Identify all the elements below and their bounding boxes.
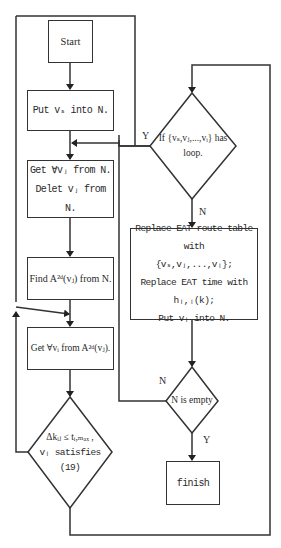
start-label: Start bbox=[61, 32, 81, 52]
condition-delta-line2: vᵢ satisfies (19) bbox=[30, 445, 110, 475]
get-delete-box: Get ∀vⱼ from N. Delet vⱼ from N. bbox=[27, 160, 114, 218]
replace-line1: Replace EAT route table with bbox=[131, 220, 257, 256]
find-label: Find A²ᵈ(vⱼ) from N. bbox=[29, 269, 111, 288]
finish-box: finish bbox=[166, 461, 220, 505]
start-box: Start bbox=[48, 20, 93, 63]
condition-delta-text: Δkᵢⱼ ≤ tᵢ,ₘₐₓ , vᵢ satisfies (19) bbox=[30, 430, 110, 475]
replace-line4: Put vᵢ into N. bbox=[158, 310, 229, 328]
delete-label: Delet vⱼ from N. bbox=[28, 180, 113, 218]
replace-box: Replace EAT route table with {vₛ,vⱼ,...,… bbox=[130, 228, 258, 320]
loop-check-text: If {vₛ,vⱼ,...,vᵢ} has loop. bbox=[152, 124, 234, 168]
loop-yes-label: Y bbox=[142, 130, 149, 141]
condition-delta-line1: Δkᵢⱼ ≤ tᵢ,ₘₐₓ , bbox=[46, 430, 93, 445]
get-from-a-label: Get ∀vᵢ from A²ᵈ(vⱼ). bbox=[31, 339, 110, 357]
empty-yes-label: Y bbox=[203, 434, 210, 445]
loop-check-line1: If {vₛ,vⱼ,...,vᵢ} has bbox=[159, 131, 228, 146]
replace-line3: Replace EAT time with hᵢ,ᵢ(k); bbox=[131, 274, 257, 310]
get-from-a-box: Get ∀vᵢ from A²ᵈ(vⱼ). bbox=[27, 327, 114, 370]
put-source-box: Put vₛ into N. bbox=[27, 90, 114, 131]
replace-line2: {vₛ,vⱼ,...,vᵢ}; bbox=[156, 256, 233, 274]
empty-no-label: N bbox=[159, 375, 166, 386]
find-box: Find A²ᵈ(vⱼ) from N. bbox=[27, 257, 114, 300]
get-label: Get ∀vⱼ from N. bbox=[30, 161, 111, 180]
n-empty-label: N is empty bbox=[171, 393, 213, 408]
put-source-label: Put vₛ into N. bbox=[33, 101, 109, 120]
finish-label: finish bbox=[177, 474, 209, 493]
n-empty-text: N is empty bbox=[168, 392, 216, 410]
loop-no-label: N bbox=[199, 206, 206, 217]
loop-check-line2: loop. bbox=[183, 146, 202, 161]
